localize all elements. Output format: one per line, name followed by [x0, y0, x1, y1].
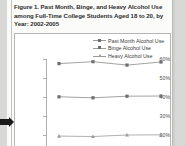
series-line [59, 135, 161, 137]
data-point-marker [125, 64, 128, 67]
data-point-marker [57, 62, 60, 65]
series-line [59, 62, 161, 65]
plot-area: Past Month Alcohol Use Binge Alcohol Use… [15, 34, 170, 146]
series-line [59, 96, 161, 98]
pointer-arrow-icon [0, 119, 9, 125]
data-point-marker [91, 96, 94, 99]
data-series-layer [15, 34, 170, 146]
data-point-marker [159, 94, 162, 97]
data-point-marker [57, 95, 60, 98]
figure-title: Figure 1. Past Month, Binge, and Heavy A… [14, 3, 166, 29]
data-point-marker [159, 60, 162, 63]
data-point-marker [125, 95, 128, 98]
screenshot-root: Figure 1. Past Month, Binge, and Heavy A… [0, 0, 185, 146]
sheet-right-shadow [173, 0, 175, 146]
data-point-marker [91, 60, 94, 63]
chart-frame: Past Month Alcohol Use Binge Alcohol Use… [14, 33, 171, 146]
